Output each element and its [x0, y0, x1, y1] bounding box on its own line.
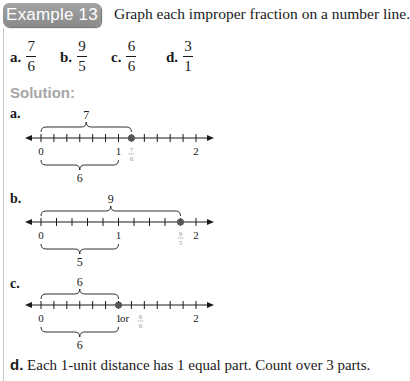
right-arrow-icon	[207, 302, 214, 308]
point-label-denominator: 6	[130, 155, 134, 163]
plotted-point	[177, 219, 184, 226]
fraction: 7 6	[26, 38, 36, 75]
fraction: 9 5	[77, 38, 87, 75]
numerator: 7	[28, 38, 36, 55]
fraction: 3 1	[183, 38, 193, 75]
bottom-brace	[41, 327, 119, 337]
top-brace	[41, 289, 119, 299]
bottom-brace-count: 5	[77, 255, 83, 268]
left-arrow-icon	[25, 135, 32, 141]
fraction-bar	[126, 56, 136, 57]
part-d-label: d.	[10, 356, 23, 373]
tick-label: 2	[193, 229, 199, 241]
tick-label: 1	[116, 229, 122, 241]
part-d-explanation: Each 1-unit distance has 1 equal part. C…	[27, 357, 370, 373]
problem-label: c.	[111, 49, 121, 66]
right-arrow-icon	[207, 219, 214, 225]
bottom-brace-count: 6	[77, 171, 83, 184]
problem-b: b. 9 5	[60, 38, 87, 75]
tick-label: 1	[116, 145, 122, 157]
numerator: 3	[184, 38, 192, 55]
left-arrow-icon	[25, 219, 32, 225]
plotted-point	[115, 302, 122, 309]
top-brace	[41, 122, 131, 132]
problem-a: a. 7 6	[10, 38, 36, 75]
bottom-brace	[41, 160, 119, 170]
top-brace-count: 6	[77, 275, 83, 289]
left-arrow-icon	[25, 302, 32, 308]
fraction-bar	[77, 56, 87, 57]
denominator: 6	[28, 58, 36, 75]
point-label-prefix: or	[120, 312, 130, 324]
number-line-a: 0127676	[0, 104, 230, 184]
plotted-point	[128, 135, 135, 142]
numerator: 9	[78, 38, 86, 55]
fraction-bar	[26, 56, 36, 57]
point-label-numerator: 6	[139, 313, 143, 321]
fraction: 6 6	[126, 38, 136, 75]
problem-label: b.	[60, 49, 72, 66]
problem-label: d.	[166, 49, 178, 66]
denominator: 6	[128, 58, 136, 75]
tick-label: 0	[38, 229, 44, 241]
number-line-c: 012or6666	[0, 271, 230, 351]
point-label-numerator: 7	[130, 146, 134, 154]
top-brace	[41, 206, 181, 216]
tick-label: 0	[38, 145, 44, 157]
tick-label: 0	[38, 312, 44, 324]
point-label-denominator: 6	[139, 322, 143, 330]
tick-label: 2	[193, 312, 199, 324]
bottom-brace-count: 6	[77, 338, 83, 351]
top-brace-count: 7	[83, 108, 89, 122]
tick-label: 2	[193, 145, 199, 157]
point-label-denominator: 5	[179, 239, 183, 247]
problem-c: c. 6 6	[111, 38, 136, 75]
right-arrow-icon	[207, 135, 214, 141]
numerator: 6	[128, 38, 136, 55]
point-label-numerator: 9	[179, 230, 183, 238]
problem-label: a.	[10, 49, 21, 66]
fraction-bar	[183, 56, 193, 57]
problem-d: d. 3 1	[166, 38, 193, 75]
part-d-text: d. Each 1-unit distance has 1 equal part…	[10, 356, 370, 374]
solution-heading: Solution:	[10, 84, 75, 101]
bottom-brace	[41, 244, 119, 254]
instruction-text: Graph each improper fraction on a number…	[114, 5, 410, 23]
number-line-b: 0129595	[0, 188, 230, 268]
top-brace-count: 9	[108, 192, 114, 206]
example-badge: Example 13	[3, 3, 101, 27]
denominator: 1	[184, 58, 192, 75]
denominator: 5	[78, 58, 86, 75]
